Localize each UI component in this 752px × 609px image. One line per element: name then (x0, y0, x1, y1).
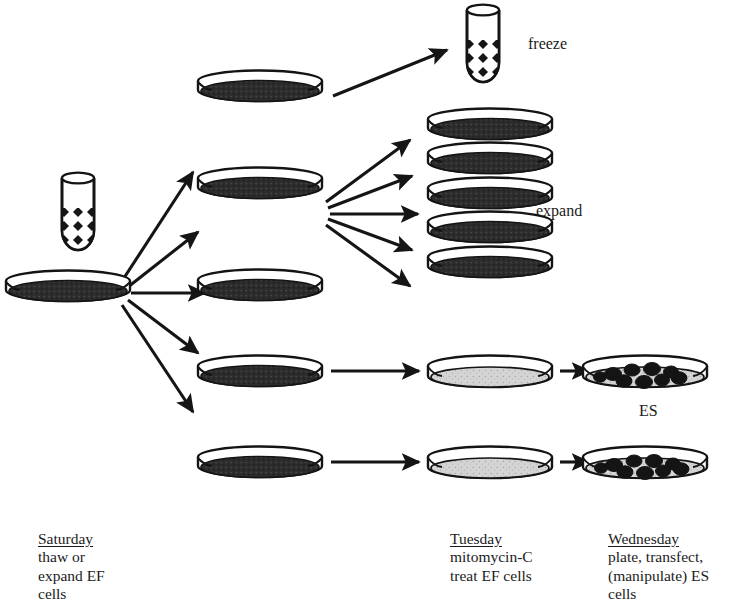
arrow-split-4 (128, 300, 198, 353)
caption-wednesday: Wednesdayplate, transfect, (manipulate) … (608, 511, 709, 604)
split-dish-4 (198, 356, 322, 387)
caption-saturday: Saturdaythaw or expand EF cells (38, 511, 105, 604)
split-dish-1 (198, 71, 322, 102)
caption-tuesday-body: mitomycin-C treat EF cells (450, 548, 533, 584)
tuesday-dish-2 (428, 447, 552, 479)
wednesday-dish-2 (583, 447, 707, 480)
saturday-source-dish (6, 271, 130, 302)
label-expand: expand (536, 202, 582, 220)
wednesday-dish-1 (583, 356, 707, 389)
expand-fan-arrows (326, 140, 418, 286)
split-dish-5 (198, 447, 322, 478)
expand-dish-4 (428, 212, 552, 243)
freeze-vial-icon (466, 5, 500, 84)
caption-saturday-day: Saturday (38, 530, 105, 549)
expand-dish-1 (428, 109, 552, 140)
caption-saturday-body: thaw or expand EF cells (38, 548, 105, 602)
caption-wednesday-day: Wednesday (608, 530, 709, 549)
caption-tuesday-day: Tuesday (450, 530, 533, 549)
arrow-to-freeze (333, 50, 447, 96)
wednesday-arrows (560, 371, 589, 462)
saturday-split-arrows (122, 172, 205, 412)
label-es: ES (639, 402, 658, 420)
expand-dish-2 (428, 143, 552, 174)
tuesday-arrows (331, 371, 419, 462)
tuesday-dish-1 (428, 356, 552, 388)
split-dish-2 (198, 168, 322, 199)
expand-dish-3 (428, 178, 552, 209)
split-dish-3 (198, 270, 322, 301)
diagram-canvas: freeze expand ES Saturdaythaw or expand … (0, 0, 752, 609)
caption-tuesday: Tuesdaymitomycin-C treat EF cells (450, 511, 533, 585)
arrow-split-2 (128, 232, 198, 287)
expand-dish-5 (428, 247, 552, 278)
label-freeze: freeze (528, 35, 567, 53)
source-vial-icon (61, 173, 95, 252)
caption-wednesday-body: plate, transfect, (manipulate) ES cells (608, 548, 709, 602)
